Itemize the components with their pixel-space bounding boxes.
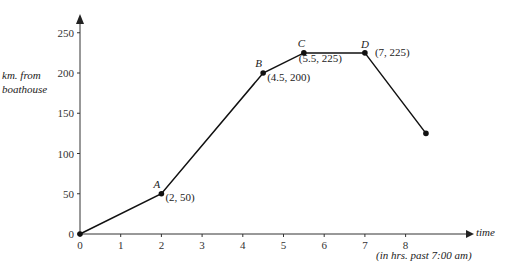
distance-line [80, 53, 426, 234]
point-coord: (2, 50) [165, 191, 195, 204]
y-tick-label: 200 [58, 67, 75, 79]
x-tick-label: 7 [362, 239, 368, 251]
data-point [159, 191, 165, 197]
point-label: B [255, 57, 262, 69]
x-tick-label: 2 [159, 239, 165, 251]
distance-time-chart: 012345678050100150200250A(2, 50)B(4.5, 2… [0, 0, 519, 273]
x-tick-label: 4 [240, 239, 246, 251]
point-label: A [152, 178, 160, 190]
y-tick-label: 250 [58, 27, 75, 39]
data-point [260, 70, 266, 76]
data-point [362, 50, 368, 56]
point-label: C [298, 37, 306, 49]
x-axis-label: time [476, 226, 495, 238]
x-tick-label: 5 [281, 239, 287, 251]
y-axis-arrow-icon [76, 14, 84, 24]
y-tick-label: 50 [63, 188, 75, 200]
y-tick-label: 0 [69, 228, 75, 240]
x-tick-label: 3 [199, 239, 205, 251]
y-tick-label: 100 [58, 148, 75, 160]
x-tick-label: 1 [118, 239, 124, 251]
data-point [77, 231, 83, 237]
point-coord: (4.5, 200) [267, 71, 310, 84]
data-point [423, 131, 429, 137]
point-label: D [360, 38, 369, 50]
x-axis-arrow-icon [466, 230, 474, 238]
y-tick-label: 150 [58, 107, 75, 119]
x-axis-note: (in hrs. past 7:00 am) [376, 249, 472, 261]
y-axis-label: km. from boathouse [2, 68, 47, 96]
x-tick-label: 0 [77, 239, 83, 251]
point-coord: (7, 225) [375, 46, 410, 59]
x-tick-label: 6 [321, 239, 327, 251]
point-coord: (5.5, 225) [299, 52, 342, 65]
